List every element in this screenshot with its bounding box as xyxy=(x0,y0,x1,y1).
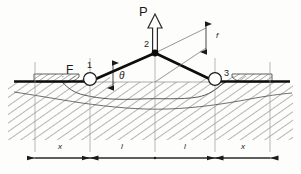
dimension-chain xyxy=(30,157,275,159)
dimension-label-right-x: x xyxy=(240,142,246,151)
node-3-label: 3 xyxy=(224,68,229,78)
sag-f-label: f xyxy=(216,31,219,40)
sag-lower-diagonal xyxy=(155,48,206,82)
soil-hatch-fill xyxy=(8,76,293,140)
sag-upper-diagonal xyxy=(155,28,206,53)
force-P-arrow xyxy=(148,14,162,53)
diagram-root: P f 1 2 3 F θ xyxy=(0,0,301,174)
force-P-label: P xyxy=(139,4,148,19)
node-2-label: 2 xyxy=(144,39,149,49)
dimension-label-left-l: l xyxy=(121,142,123,151)
dimension-label-left-x: x xyxy=(57,142,63,151)
dimension-center-tick xyxy=(154,157,156,159)
force-F-label: F xyxy=(66,63,73,77)
node-1-label: 1 xyxy=(87,60,92,70)
node-3-support xyxy=(209,73,222,86)
node-1-circle xyxy=(84,73,97,86)
node-3-circle xyxy=(209,73,222,86)
dimension-label-right-l: l xyxy=(184,142,186,151)
statics-diagram-svg: P f 1 2 3 F θ xyxy=(0,0,301,174)
force-P-arrow-shape xyxy=(148,14,162,53)
soil-mass xyxy=(8,76,293,140)
node-1-support xyxy=(84,73,97,86)
node-2-dot xyxy=(152,50,159,57)
angle-theta-label: θ xyxy=(119,70,125,81)
